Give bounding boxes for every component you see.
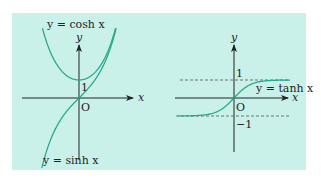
right-x-axis-label: x bbox=[292, 91, 299, 104]
right-y-axis-label: y bbox=[230, 31, 238, 44]
left-y-axis-label: y bbox=[75, 31, 83, 44]
left-graph: y = cosh x y = sinh x y x O 1 bbox=[22, 18, 145, 168]
right-graph: y = tanh x y x O 1 −1 bbox=[175, 31, 314, 152]
right-origin-label: O bbox=[236, 101, 245, 114]
sinh-label: y = sinh x bbox=[42, 154, 99, 167]
left-tick-one-label: 1 bbox=[81, 81, 88, 94]
hyperbolic-functions-figure: y = cosh x y = sinh x y x O 1 y = tanh x… bbox=[0, 0, 321, 179]
right-tick-minus-one-label: −1 bbox=[236, 118, 252, 131]
left-x-axis-label: x bbox=[138, 91, 145, 104]
cosh-label: y = cosh x bbox=[46, 18, 105, 31]
right-tick-one-label: 1 bbox=[236, 67, 243, 80]
tanh-label: y = tanh x bbox=[255, 82, 314, 95]
left-origin-label: O bbox=[81, 101, 90, 114]
